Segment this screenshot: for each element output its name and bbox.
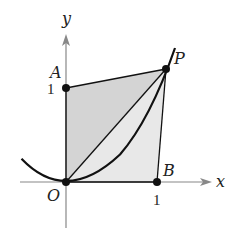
label-point-o: O	[47, 186, 60, 205]
point-b	[153, 178, 161, 186]
label-y-axis: y	[61, 9, 72, 28]
point-p	[162, 65, 170, 73]
label-point-a: A	[48, 63, 62, 82]
point-o	[62, 178, 70, 186]
tick-label-x-1: 1	[153, 192, 161, 208]
label-point-b: B	[162, 161, 175, 180]
label-x-axis: x	[216, 172, 225, 191]
diagram: y x A 1 P B 1 O	[0, 0, 238, 232]
point-a	[62, 84, 70, 92]
tick-label-y-1: 1	[47, 81, 55, 97]
label-point-p: P	[173, 49, 185, 68]
